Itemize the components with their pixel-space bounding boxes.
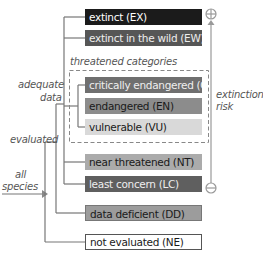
category-box-ex: extinct (EX) xyxy=(85,9,202,25)
category-label: data deficient (DD) xyxy=(90,208,185,220)
evaluated-label: evaluated xyxy=(10,134,58,145)
category-box-dd: data deficient (DD) xyxy=(85,205,202,221)
category-label: near threatened (NT) xyxy=(89,156,194,168)
category-label: critically endangered (CR) xyxy=(89,79,202,91)
category-box-en: endangered (EN) xyxy=(85,98,202,114)
category-label: least concern (LC) xyxy=(89,178,179,190)
category-box-cr: critically endangered (CR) xyxy=(85,77,202,93)
category-box-ew: extinct in the wild (EW) xyxy=(85,30,202,46)
category-box-vu: vulnerable (VU) xyxy=(85,119,202,135)
threatened-categories-label: threatened categories xyxy=(70,56,177,67)
category-box-lc: least concern (LC) xyxy=(85,176,202,192)
category-label: not evaluated (NE) xyxy=(90,236,184,248)
category-box-nt: near threatened (NT) xyxy=(85,154,202,170)
category-label: endangered (EN) xyxy=(89,100,174,112)
all-species-label-line2: species xyxy=(2,181,38,192)
adequate-data-label-line2: data xyxy=(40,92,62,103)
all-species-label-line1: all xyxy=(15,169,26,180)
category-label: extinct (EX) xyxy=(89,11,147,23)
category-label: vulnerable (VU) xyxy=(89,121,167,133)
extinction-risk-label-line2: risk xyxy=(216,101,233,112)
category-box-ne: not evaluated (NE) xyxy=(85,234,202,250)
category-label: extinct in the wild (EW) xyxy=(89,32,202,44)
adequate-data-label-line1: adequate xyxy=(18,79,64,90)
extinction-risk-label-line1: extinction xyxy=(216,89,263,100)
